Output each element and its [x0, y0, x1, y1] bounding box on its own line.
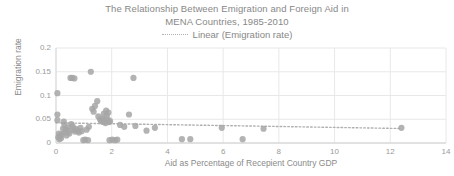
- data-point: [85, 137, 91, 143]
- data-point: [152, 125, 158, 131]
- data-point: [105, 110, 111, 116]
- data-point: [132, 123, 138, 129]
- data-point: [88, 69, 94, 75]
- data-point: [86, 124, 92, 130]
- y-axis-tick-label: 0: [25, 138, 51, 147]
- y-axis-tick-label: 0.1: [25, 91, 51, 100]
- x-axis-tick-label: 10: [322, 147, 348, 156]
- data-point: [121, 124, 127, 130]
- y-axis-tick-label: 0.2: [25, 43, 51, 52]
- data-point: [240, 136, 246, 142]
- data-point: [114, 137, 120, 143]
- data-point: [54, 117, 60, 123]
- y-axis-label: Emigration rate: [13, 17, 23, 117]
- x-axis-tick-label: 2: [99, 147, 125, 156]
- x-axis-tick-label: 8: [266, 147, 292, 156]
- x-axis-tick-label: 12: [377, 147, 403, 156]
- data-point: [187, 136, 193, 142]
- scatter-chart: The Relationship Between Emigration and …: [0, 0, 454, 176]
- data-point: [107, 118, 113, 124]
- y-axis-tick-label: 0.05: [25, 114, 51, 123]
- data-point: [260, 126, 266, 132]
- x-axis-tick-label: 0: [43, 147, 69, 156]
- data-point: [71, 75, 77, 81]
- data-point: [91, 109, 97, 115]
- x-axis-tick-label: 6: [210, 147, 236, 156]
- data-point: [54, 111, 60, 117]
- data-point: [54, 90, 60, 96]
- data-point: [94, 98, 100, 104]
- y-axis-tick-label: 0.15: [25, 67, 51, 76]
- x-axis-tick-label: 4: [154, 147, 180, 156]
- data-point: [126, 111, 132, 117]
- data-point: [179, 136, 185, 142]
- data-point: [143, 128, 149, 134]
- x-axis-label: Aid as Percentage of Recepient Country G…: [56, 158, 446, 168]
- data-point: [130, 75, 136, 81]
- x-axis-tick-label: 14: [433, 147, 454, 156]
- data-point: [219, 125, 225, 131]
- data-point: [398, 125, 404, 131]
